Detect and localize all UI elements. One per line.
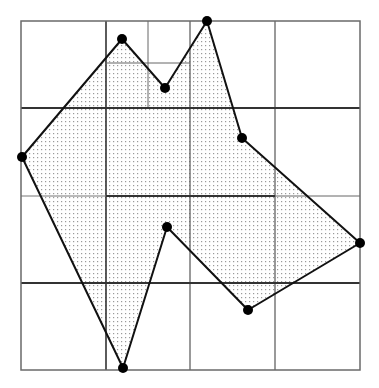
vertex-dot-8 bbox=[17, 152, 27, 162]
vertex-dot-0 bbox=[117, 34, 127, 44]
vertex-dot-1 bbox=[160, 83, 170, 93]
polygon-fill bbox=[22, 21, 360, 368]
quadtree-grid bbox=[21, 21, 360, 370]
vertex-dot-2 bbox=[202, 16, 212, 26]
vertex-dot-6 bbox=[162, 222, 172, 232]
polygon-region bbox=[22, 21, 360, 368]
diagram-svg bbox=[0, 0, 379, 388]
vertex-dot-3 bbox=[237, 133, 247, 143]
quadtree-diagram bbox=[0, 0, 379, 388]
vertex-dot-7 bbox=[118, 363, 128, 373]
vertex-dot-4 bbox=[355, 238, 365, 248]
vertex-dot-5 bbox=[243, 305, 253, 315]
